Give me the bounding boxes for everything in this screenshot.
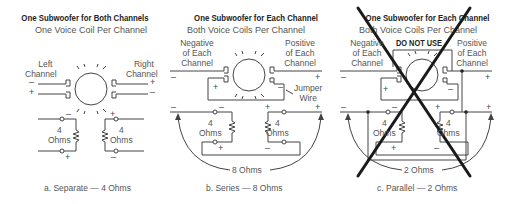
label-line: Channel	[278, 58, 322, 68]
plus-sign: +	[391, 144, 396, 153]
coil-impedance-right: 4 Ohms	[266, 118, 289, 138]
minus-sign: –	[219, 103, 224, 112]
total-impedance: 2 Ohms	[402, 165, 436, 175]
do-not-use-cross-icon	[358, 8, 470, 176]
minus-sign: –	[111, 153, 116, 162]
label-line: Channel	[175, 58, 219, 68]
label-line: of Each	[450, 48, 494, 58]
ohms-value: 4	[373, 118, 396, 128]
minus-sign: –	[29, 78, 34, 87]
minus-sign: –	[150, 88, 155, 97]
coil-impedance-left: 4 Ohms	[373, 118, 396, 138]
label-line: of Each	[175, 48, 219, 58]
minus-sign: –	[278, 83, 283, 92]
panel-caption: c. Parallel — 2 Ohms	[377, 183, 457, 193]
plus-sign: +	[383, 85, 388, 94]
ohms-unit: Ohms	[373, 128, 396, 138]
plus-sign: +	[435, 103, 440, 112]
label-line: Jumper	[294, 83, 322, 93]
panel-separate: One Subwoofer for Both Channels One Voic…	[0, 0, 170, 204]
minus-sign: –	[171, 73, 176, 82]
panel-caption: a. Separate — 4 Ohms	[44, 183, 131, 193]
panel-series: One Subwoofer for Each Channel Both Voic…	[170, 0, 342, 204]
label-line: of Each	[278, 48, 322, 58]
panel-caption: b. Series — 8 Ohms	[206, 183, 283, 193]
label-line: Negative	[175, 38, 219, 48]
ohms-value: 4	[437, 118, 460, 128]
coil-impedance-left: 4 Ohms	[48, 125, 71, 145]
plus-sign: +	[218, 144, 223, 153]
positive-label: Positive of Each Channel	[278, 38, 322, 68]
right-channel-label: Right Channel	[130, 59, 158, 79]
minus-sign: –	[265, 144, 270, 153]
ohms-value: 4	[110, 125, 133, 135]
plus-sign: +	[486, 103, 491, 112]
ohms-unit: Ohms	[266, 128, 289, 138]
plus-sign: +	[485, 73, 490, 82]
wiring-diagram-separate	[0, 0, 170, 204]
coil-impedance-left: 4 Ohms	[199, 118, 222, 138]
label-line: Right	[130, 59, 158, 69]
minus-sign: –	[341, 73, 346, 82]
do-not-use-warning: DO NOT USE	[396, 38, 442, 48]
label-line: Channel	[450, 58, 494, 68]
jumper-wire-label: Jumper Wire	[294, 83, 322, 103]
minus-sign: –	[341, 103, 346, 112]
plus-sign: +	[213, 83, 218, 92]
label-line: Left	[34, 59, 57, 69]
minus-sign: –	[392, 103, 397, 112]
ohms-value: 4	[199, 118, 222, 128]
ohms-value: 4	[266, 118, 289, 128]
positive-label: Positive of Each Channel	[450, 38, 494, 68]
ohms-unit: Ohms	[110, 135, 133, 145]
plus-sign: +	[65, 153, 70, 162]
plus-sign: +	[29, 88, 34, 97]
ohms-unit: Ohms	[199, 128, 222, 138]
label-line: Positive	[450, 38, 494, 48]
label-line: Channel	[345, 58, 389, 68]
plus-sign: +	[315, 73, 320, 82]
coil-impedance-right: 4 Ohms	[437, 118, 460, 138]
coil-impedance-right: 4 Ohms	[110, 125, 133, 145]
left-channel-label: Left Channel	[34, 59, 57, 79]
minus-sign: –	[448, 85, 453, 94]
minus-sign: –	[434, 144, 439, 153]
negative-label: Negative of Each Channel	[345, 38, 389, 68]
minus-sign: –	[171, 103, 176, 112]
plus-sign: +	[110, 110, 115, 119]
panel-parallel: One Subwoofer for Each Channel Both Voic…	[340, 0, 515, 204]
label-line: Positive	[278, 38, 322, 48]
minus-sign: –	[66, 110, 71, 119]
plus-sign: +	[150, 78, 155, 87]
plus-sign: +	[315, 103, 320, 112]
label-line: Negative	[345, 38, 389, 48]
negative-label: Negative of Each Channel	[175, 38, 219, 68]
plus-sign: +	[265, 103, 270, 112]
label-line: of Each	[345, 48, 389, 58]
total-impedance: 8 Ohms	[232, 165, 262, 175]
ohms-unit: Ohms	[48, 135, 71, 145]
ohms-value: 4	[48, 125, 71, 135]
ohms-unit: Ohms	[437, 128, 460, 138]
